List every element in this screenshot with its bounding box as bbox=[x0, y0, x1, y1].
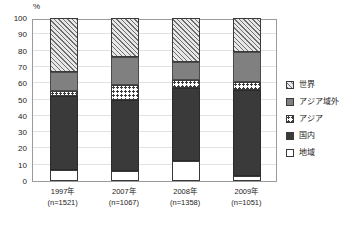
x-axis-label-sample-size: (n=1051) bbox=[213, 197, 279, 208]
bar-2008年[interactable] bbox=[172, 20, 200, 181]
bar-segment-アジア[interactable] bbox=[233, 82, 261, 90]
gray-swatch bbox=[286, 98, 294, 106]
y-axis-tick: 50 bbox=[18, 97, 27, 105]
y-axis-unit-label: % bbox=[33, 2, 40, 11]
legend-item-世界[interactable]: 世界 bbox=[286, 76, 358, 93]
bar-segment-アジア域外[interactable] bbox=[111, 57, 139, 85]
y-axis-tick: 0 bbox=[23, 178, 27, 186]
bars-layer bbox=[33, 20, 276, 181]
x-axis-label-year: 2007年 bbox=[91, 186, 157, 197]
hatch-swatch bbox=[286, 81, 294, 89]
bar-segment-アジア域外[interactable] bbox=[172, 62, 200, 80]
bar-segment-国内[interactable] bbox=[50, 96, 78, 169]
bar-segment-地域[interactable] bbox=[172, 161, 200, 181]
bar-segment-国内[interactable] bbox=[172, 88, 200, 161]
x-axis-label: 1997年(n=1521) bbox=[30, 186, 96, 208]
y-axis-tick: 20 bbox=[18, 145, 27, 153]
legend-item-アジア域外[interactable]: アジア域外 bbox=[286, 93, 358, 110]
bar-segment-世界[interactable] bbox=[172, 18, 200, 62]
bar-2009年[interactable] bbox=[233, 20, 261, 181]
x-axis-label: 2009年(n=1051) bbox=[213, 186, 279, 208]
legend-item-label: アジア bbox=[299, 114, 323, 123]
x-axis-label: 2007年(n=1067) bbox=[91, 186, 157, 208]
legend-item-地域[interactable]: 地域 bbox=[286, 144, 358, 161]
x-axis-label-year: 1997年 bbox=[30, 186, 96, 197]
x-axis-label-year: 2009年 bbox=[213, 186, 279, 197]
y-axis-tick: 70 bbox=[18, 64, 27, 72]
bar-segment-世界[interactable] bbox=[111, 18, 139, 57]
y-axis-tick: 10 bbox=[18, 162, 27, 170]
x-axis-labels: 1997年(n=1521)2007年(n=1067)2008年(n=1358)2… bbox=[32, 186, 277, 220]
legend-item-label: 地域 bbox=[299, 148, 315, 157]
y-axis-tick: 60 bbox=[18, 80, 27, 88]
x-axis-label-year: 2008年 bbox=[152, 186, 218, 197]
y-axis-tick: 100 bbox=[14, 15, 27, 23]
plot-area bbox=[32, 19, 277, 182]
bar-segment-世界[interactable] bbox=[50, 18, 78, 72]
white-swatch bbox=[286, 149, 294, 157]
y-axis: 0102030405060708090100 bbox=[0, 19, 30, 182]
y-axis-tick: 80 bbox=[18, 48, 27, 56]
x-axis-label: 2008年(n=1358) bbox=[152, 186, 218, 208]
bar-segment-アジア域外[interactable] bbox=[233, 52, 261, 81]
bar-segment-アジア域外[interactable] bbox=[50, 72, 78, 92]
y-axis-tick: 90 bbox=[18, 31, 27, 39]
bar-segment-国内[interactable] bbox=[233, 90, 261, 176]
bar-segment-国内[interactable] bbox=[111, 100, 139, 172]
bar-segment-アジア[interactable] bbox=[111, 85, 139, 100]
bar-segment-地域[interactable] bbox=[50, 170, 78, 181]
chart-legend: 世界アジア域外アジア国内地域 bbox=[286, 76, 358, 161]
x-axis-label-sample-size: (n=1358) bbox=[152, 197, 218, 208]
bar-segment-アジア[interactable] bbox=[172, 80, 200, 88]
x-axis-label-sample-size: (n=1067) bbox=[91, 197, 157, 208]
legend-item-label: 世界 bbox=[299, 80, 315, 89]
bar-1997年[interactable] bbox=[50, 20, 78, 181]
legend-item-アジア[interactable]: アジア bbox=[286, 110, 358, 127]
dotted-swatch bbox=[286, 115, 294, 123]
bar-segment-地域[interactable] bbox=[111, 171, 139, 181]
y-axis-tick: 40 bbox=[18, 113, 27, 121]
x-axis-label-sample-size: (n=1521) bbox=[30, 197, 96, 208]
legend-item-国内[interactable]: 国内 bbox=[286, 127, 358, 144]
dark-swatch bbox=[286, 132, 294, 140]
bar-segment-世界[interactable] bbox=[233, 18, 261, 52]
bar-2007年[interactable] bbox=[111, 20, 139, 181]
y-axis-tick: 30 bbox=[18, 129, 27, 137]
stacked-bar-chart: % 0102030405060708090100 1997年(n=1521)20… bbox=[0, 0, 359, 226]
legend-item-label: 国内 bbox=[299, 131, 315, 140]
legend-item-label: アジア域外 bbox=[299, 97, 339, 106]
bar-segment-地域[interactable] bbox=[233, 176, 261, 181]
